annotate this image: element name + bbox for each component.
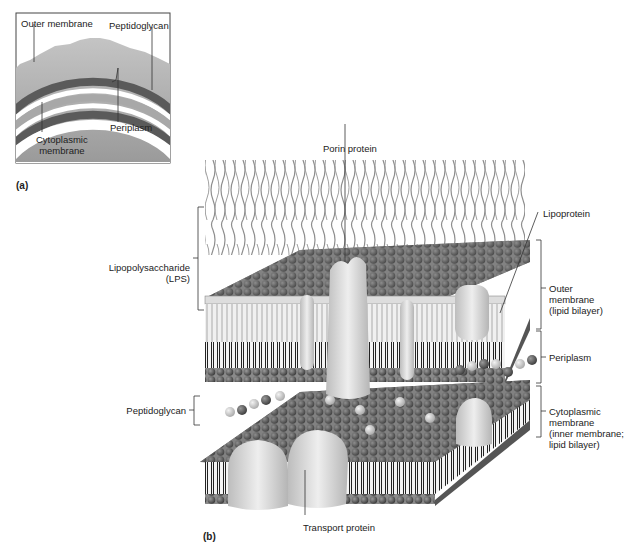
label-peptidoglycan: Peptidoglycan	[118, 405, 186, 416]
panel-b-illustration	[189, 124, 546, 515]
label-lipoprotein: Lipoprotein	[543, 208, 590, 219]
label-periplasm: Periplasm	[549, 352, 591, 363]
label-transport-protein: Transport protein	[303, 522, 375, 533]
panel-b-tag: (b)	[203, 531, 216, 542]
label-porin-protein: Porin protein	[323, 143, 377, 154]
label-a-peptidoglycan: Peptidoglycan	[109, 20, 169, 31]
label-lps: Lipopolysaccharide (LPS)	[104, 262, 190, 284]
label-a-periplasm: Periplasm	[110, 122, 152, 133]
label-a-cytoplasmic-membrane: Cytoplasmic membrane	[36, 134, 88, 156]
label-a-outer-membrane: Outer membrane	[21, 18, 93, 29]
panel-a-illustration	[10, 13, 176, 164]
panel-a-tag: (a)	[16, 180, 28, 191]
label-cytoplasmic-membrane: Cytoplasmic membrane (inner membrane; li…	[549, 406, 624, 450]
label-outer-membrane: Outer membrane (lipid bilayer)	[549, 283, 603, 316]
cell-envelope-diagram	[0, 0, 632, 553]
